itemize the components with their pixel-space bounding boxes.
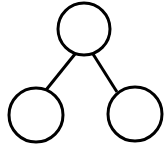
edge-root-left xyxy=(46,54,75,90)
node-right-child xyxy=(108,87,162,141)
node-left-child xyxy=(9,88,63,142)
edge-root-right xyxy=(93,54,117,92)
node-root xyxy=(58,3,110,55)
tree-diagram xyxy=(0,0,165,148)
